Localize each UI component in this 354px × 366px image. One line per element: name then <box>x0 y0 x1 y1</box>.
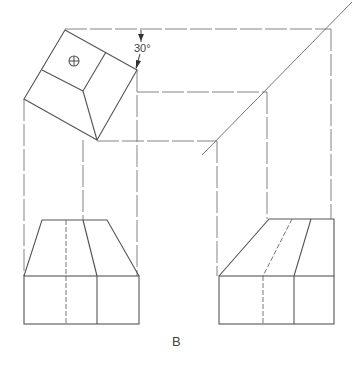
auxiliary-edge-1 <box>83 52 106 91</box>
side-view <box>219 219 334 324</box>
angle-label: 30° <box>134 42 151 54</box>
side-visible-edge <box>294 219 311 276</box>
auxiliary-view <box>24 30 137 140</box>
orthographic-drawing: 30° B <box>0 0 354 366</box>
side-hidden-edge <box>263 219 292 276</box>
angle-dimension: 30° <box>134 30 151 69</box>
arrowhead-down-icon <box>138 34 144 41</box>
front-base-rect <box>24 276 139 324</box>
auxiliary-edge-3 <box>83 91 97 140</box>
auxiliary-outline <box>24 30 137 140</box>
side-top-outline <box>219 219 334 276</box>
side-base-rect <box>219 276 334 324</box>
arrowhead-up-icon <box>136 60 141 69</box>
miter-line <box>202 2 352 155</box>
circle-cross-icon <box>69 56 79 66</box>
figure-caption: B <box>172 334 181 349</box>
auxiliary-edge-2 <box>42 70 83 91</box>
front-top-outline <box>24 220 139 276</box>
front-view <box>24 220 139 324</box>
front-visible-edge <box>83 220 97 276</box>
projection-lines <box>24 29 331 276</box>
